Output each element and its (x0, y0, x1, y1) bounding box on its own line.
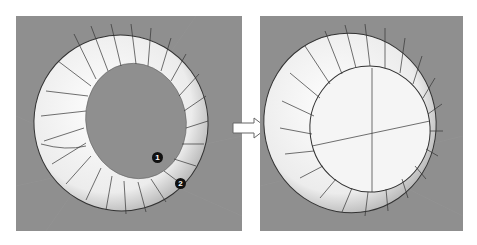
torus-capped-illustration (260, 16, 463, 231)
callout-marker-2: 2 (175, 178, 186, 189)
torus-open-illustration (16, 16, 242, 231)
viewport-before: 1 2 (16, 16, 242, 231)
viewport-after (260, 16, 463, 231)
callout-marker-1: 1 (152, 152, 163, 163)
